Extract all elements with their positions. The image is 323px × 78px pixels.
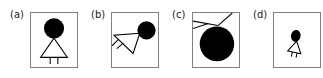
panel-c-drawing <box>193 13 239 67</box>
figure-head-icon <box>200 27 235 62</box>
panel-a <box>30 12 78 68</box>
panel-b <box>111 12 159 68</box>
panel-a-frame <box>30 12 78 68</box>
figure-leg-left <box>291 52 292 57</box>
figure-body-edge-lower <box>193 24 208 31</box>
figure-leg-left <box>112 39 119 46</box>
panel-c <box>192 12 240 68</box>
figure-leg-right <box>117 43 124 49</box>
figure-body-triangle <box>114 33 140 53</box>
panel-label-c: (c) <box>172 9 185 21</box>
figure-container: (a) (b) (c) <box>0 0 323 78</box>
panel-d <box>273 12 321 68</box>
panel-d-frame <box>273 12 321 68</box>
figure-head-icon <box>137 21 155 39</box>
panel-label-b: (b) <box>91 9 105 21</box>
panel-b-drawing <box>112 13 158 67</box>
figure-body-edge-right <box>218 13 232 26</box>
figure-body-triangle <box>41 38 68 57</box>
figure-leg-right <box>296 53 297 58</box>
figure-head-icon <box>44 18 64 38</box>
panel-label-d: (d) <box>253 9 267 21</box>
panel-a-drawing <box>31 13 77 67</box>
panel-c-frame <box>192 12 240 68</box>
panel-d-drawing <box>274 13 320 67</box>
panel-b-frame <box>111 12 159 68</box>
figure-head-icon <box>290 29 302 43</box>
panel-label-a: (a) <box>10 9 24 21</box>
